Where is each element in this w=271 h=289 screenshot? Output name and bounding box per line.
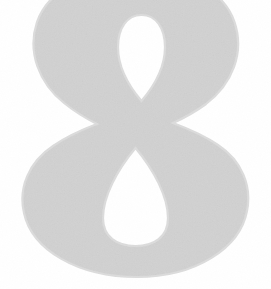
- glyph-layer: [0, 0, 271, 289]
- numeral-eight-icon: [0, 0, 271, 289]
- image-canvas: 8: [0, 0, 271, 289]
